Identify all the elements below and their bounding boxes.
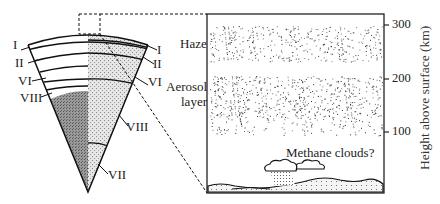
axis-tick-100: 100: [392, 125, 411, 138]
axis-title: Height above surface (km): [417, 26, 433, 170]
left-label-I: I: [13, 38, 17, 51]
left-label-II: II: [15, 56, 24, 69]
haze-label: Haze: [180, 37, 207, 50]
right-label-VI: VI: [148, 75, 162, 88]
right-label-II: II: [153, 57, 162, 70]
aerosol-label-line2: layer: [181, 95, 207, 108]
aerosol-label-line1: Aerosol: [166, 80, 207, 93]
atmosphere-panel: [207, 14, 389, 193]
axis-tick-200: 200: [392, 72, 411, 85]
left-label-VI: VI: [18, 74, 32, 87]
titan-structure-diagram: [0, 0, 440, 204]
right-label-VIII: VIII: [126, 120, 148, 133]
methane-clouds-label: Methane clouds?: [286, 146, 374, 159]
left-label-VIII: VIII: [20, 91, 42, 104]
right-label-I: I: [157, 43, 161, 56]
right-label-VII: VII: [108, 168, 126, 181]
axis-tick-300: 300: [392, 18, 411, 31]
axis-ticks: [384, 25, 389, 132]
